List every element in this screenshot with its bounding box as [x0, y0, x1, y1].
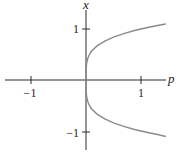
p-tick-label-1: 1 [138, 86, 144, 100]
p-tick-label-neg1: −1 [24, 86, 37, 100]
x-tick-label-neg1: −1 [66, 126, 79, 140]
bifurcation-plot: −1 1 1 −1 p x [0, 0, 178, 152]
p-axis-label: p [167, 71, 175, 86]
x-axis-label: x [82, 0, 89, 12]
x-tick-label-1: 1 [73, 22, 79, 36]
upper-branch-curve [86, 24, 166, 80]
lower-branch-curve [86, 80, 166, 137]
